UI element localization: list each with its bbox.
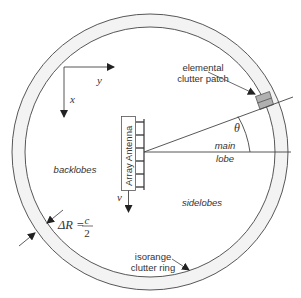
main-lobe-label-line1: main — [215, 140, 236, 151]
array-antenna: Array Antenna v — [117, 117, 144, 213]
sidelobes-label: sidelobes — [182, 197, 222, 208]
delta-r-numerator: c — [85, 214, 90, 226]
main-lobe-label-line2: lobe — [216, 153, 234, 164]
delta-r-arrow-outer — [19, 233, 35, 246]
velocity-label: v — [117, 191, 122, 203]
backlobes-label: backlobes — [54, 164, 97, 175]
delta-r-lhs: ΔR = — [57, 218, 85, 232]
x-axis-label: x — [69, 93, 75, 105]
antenna-label: Array Antenna — [123, 125, 134, 186]
theta-label: θ — [234, 121, 240, 135]
y-axis-label: y — [96, 74, 102, 86]
antenna-elements — [136, 122, 144, 187]
patch-label-line1: elemental — [182, 62, 223, 73]
coordinate-axes: y x — [64, 67, 114, 117]
clutter-ring-diagram: y x Array Antenna v elemental clutter pa… — [0, 0, 301, 298]
ring-label-line2: clutter ring — [131, 262, 175, 273]
delta-r-denominator: 2 — [84, 227, 90, 239]
ring-label-line1: isorange — [135, 251, 171, 262]
